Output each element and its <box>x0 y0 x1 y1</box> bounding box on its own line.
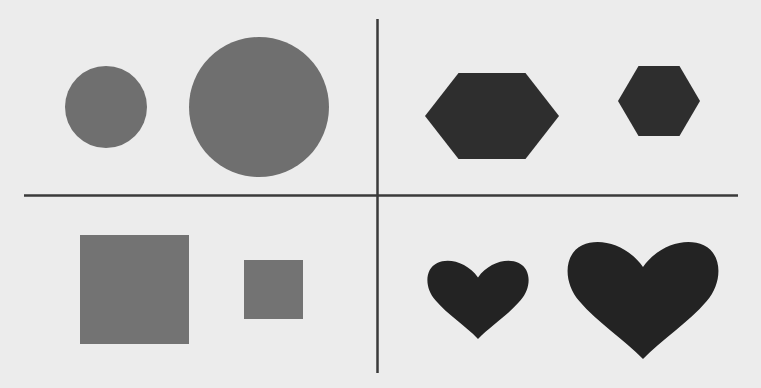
large-square-shape <box>80 235 189 344</box>
shape-comparison-figure <box>0 0 761 388</box>
small-square-shape <box>244 260 303 319</box>
small-circle-shape <box>65 66 147 148</box>
large-circle-shape <box>189 37 329 177</box>
